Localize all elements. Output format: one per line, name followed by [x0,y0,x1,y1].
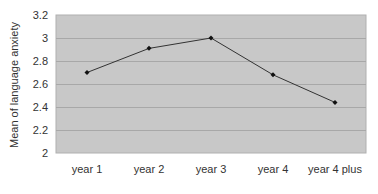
x-tick: year 3 [176,163,246,175]
x-tick: year 1 [52,163,122,175]
line-chart: Mean of language anxiety 2 2.2 2.4 2.6 2… [0,0,378,194]
y-tick: 3.2 [18,9,48,21]
x-tick: year 4 [238,163,308,175]
x-tick: year 4 plus [300,163,370,175]
x-tick: year 2 [114,163,184,175]
y-tick: 3 [18,32,48,44]
y-tick: 2.4 [18,101,48,113]
y-tick: 2 [18,147,48,159]
y-tick: 2.2 [18,124,48,136]
y-tick: 2.8 [18,55,48,67]
y-tick: 2.6 [18,78,48,90]
